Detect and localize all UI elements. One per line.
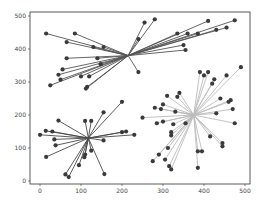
connector-line <box>88 138 103 140</box>
data-point <box>142 21 146 25</box>
data-point <box>77 163 81 167</box>
scatter-chart: 0100200300400500 0100200300400500 <box>0 0 262 203</box>
data-point <box>239 65 243 69</box>
data-point <box>101 110 105 114</box>
data-point <box>101 138 105 142</box>
data-point <box>82 155 86 159</box>
data-point <box>44 155 48 159</box>
data-point <box>155 121 159 125</box>
data-point <box>63 172 67 176</box>
data-point <box>140 116 144 120</box>
data-point <box>166 146 170 150</box>
data-point <box>153 106 157 110</box>
x-tick-label: 500 <box>239 187 251 194</box>
x-tick-label: 0 <box>38 187 42 194</box>
connector-line <box>89 56 128 77</box>
data-point <box>120 130 124 134</box>
data-point <box>165 94 169 98</box>
data-point <box>161 102 165 106</box>
data-point <box>89 149 93 153</box>
x-axis-ticks: 0100200300400500 <box>38 184 251 194</box>
data-point <box>183 48 187 52</box>
data-point <box>44 31 48 35</box>
data-point <box>53 143 57 147</box>
data-point <box>173 110 177 114</box>
data-point <box>136 70 140 74</box>
connector-line <box>194 109 233 115</box>
data-point <box>67 175 71 179</box>
y-tick-label: 300 <box>15 78 27 85</box>
x-tick-label: 100 <box>75 187 87 194</box>
data-point <box>224 73 228 77</box>
data-point <box>99 62 103 66</box>
data-point <box>73 31 77 35</box>
connector-line <box>194 100 231 115</box>
y-tick-label: 200 <box>15 111 27 118</box>
data-point <box>196 166 200 170</box>
data-point <box>196 31 200 35</box>
y-tick-label: 400 <box>15 45 27 52</box>
data-point <box>198 70 202 74</box>
data-point <box>89 119 93 123</box>
data-point <box>159 107 163 111</box>
connector-line <box>75 33 128 55</box>
data-point <box>132 133 136 137</box>
data-point <box>44 129 48 133</box>
data-point <box>65 40 69 44</box>
data-point <box>79 74 83 78</box>
data-point <box>233 121 237 125</box>
x-tick-label: 400 <box>198 187 210 194</box>
data-point <box>206 70 210 74</box>
data-point <box>206 19 210 23</box>
data-point <box>83 119 87 123</box>
connector-line <box>179 93 193 115</box>
data-point <box>218 96 222 100</box>
x-tick-label: 300 <box>157 187 169 194</box>
data-point <box>60 67 64 71</box>
y-tick-label: 0 <box>22 177 26 184</box>
data-point <box>183 121 187 125</box>
data-point <box>56 119 60 123</box>
data-point <box>175 95 179 99</box>
data-point <box>157 153 161 157</box>
data-point <box>120 100 124 104</box>
data-point <box>153 17 157 21</box>
data-point <box>101 45 105 49</box>
data-point <box>171 122 175 126</box>
data-point <box>196 149 200 153</box>
data-point <box>202 73 206 77</box>
y-axis-ticks: 0100200300400500 <box>15 12 30 184</box>
data-point <box>186 31 190 35</box>
data-point <box>91 45 95 49</box>
data-point <box>151 159 155 163</box>
data-point <box>214 111 218 115</box>
data-point <box>161 120 165 124</box>
data-point <box>212 77 216 81</box>
data-point <box>233 18 237 22</box>
data-point <box>50 129 54 133</box>
data-point <box>177 91 181 95</box>
data-points <box>38 17 243 179</box>
data-point <box>58 78 62 82</box>
data-point <box>87 74 91 78</box>
data-point <box>220 144 224 148</box>
data-point <box>169 167 173 171</box>
connector-lines <box>40 19 241 177</box>
data-point <box>136 37 140 41</box>
connector-line <box>86 56 128 89</box>
data-point <box>84 87 88 91</box>
data-point <box>169 133 173 137</box>
data-point <box>48 83 52 87</box>
data-point <box>124 129 128 133</box>
y-tick-label: 500 <box>15 12 27 19</box>
data-point <box>65 56 69 60</box>
data-point <box>200 149 204 153</box>
data-point <box>231 107 235 111</box>
data-point <box>163 157 167 161</box>
data-point <box>181 43 185 47</box>
data-point <box>38 133 42 137</box>
data-point <box>224 25 228 29</box>
x-tick-label: 200 <box>116 187 128 194</box>
connector-line <box>128 56 138 73</box>
data-point <box>95 56 99 60</box>
